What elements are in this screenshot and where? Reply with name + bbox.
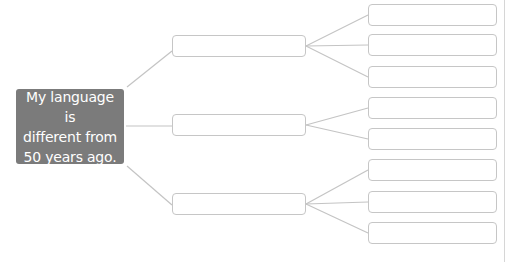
leaf-node-3-2[interactable] [368, 191, 497, 213]
connector-branch-1-leaf-2 [306, 45, 368, 46]
connector-branch-2-leaf-1 [306, 108, 368, 125]
connector-root-branch-3 [127, 166, 172, 205]
branch-node-1[interactable] [172, 35, 306, 57]
connector-branch-1-leaf-1 [306, 15, 368, 46]
connector-branch-2-leaf-2 [306, 125, 368, 139]
connector-root-branch-1 [127, 51, 172, 87]
leaf-node-1-1[interactable] [368, 4, 497, 26]
connector-branch-1-leaf-3 [306, 46, 368, 77]
root-node-text: My language is different from 50 years a… [20, 87, 120, 167]
leaf-node-1-2[interactable] [368, 34, 497, 56]
leaf-node-3-3[interactable] [368, 222, 497, 244]
leaf-node-2-2[interactable] [368, 128, 497, 150]
tree-diagram: My language is different from 50 years a… [0, 0, 506, 262]
root-node: My language is different from 50 years a… [16, 89, 124, 164]
connector-branch-3-leaf-2 [306, 202, 368, 204]
connector-branch-3-leaf-3 [306, 204, 368, 233]
leaf-node-1-3[interactable] [368, 66, 497, 88]
leaf-node-3-1[interactable] [368, 159, 497, 181]
branch-node-3[interactable] [172, 193, 306, 215]
branch-node-2[interactable] [172, 114, 306, 136]
page-edge-divider [504, 0, 505, 262]
connector-branch-3-leaf-1 [306, 170, 368, 204]
leaf-node-2-1[interactable] [368, 97, 497, 119]
